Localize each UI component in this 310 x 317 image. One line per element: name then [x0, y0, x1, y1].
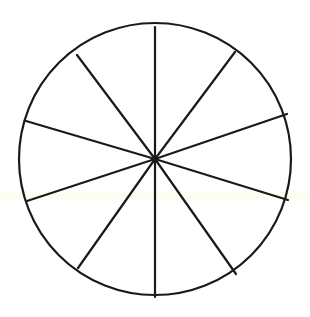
radius-line-3	[155, 114, 287, 159]
circle-divided-into-ten-sectors	[0, 0, 310, 317]
radius-line-9	[26, 121, 155, 159]
radius-line-4	[155, 159, 288, 200]
radius-line-10	[77, 55, 155, 159]
radius-line-8	[27, 159, 155, 201]
radius-line-2	[155, 52, 235, 159]
radius-line-7	[78, 159, 155, 268]
radius-line-5	[155, 159, 236, 274]
